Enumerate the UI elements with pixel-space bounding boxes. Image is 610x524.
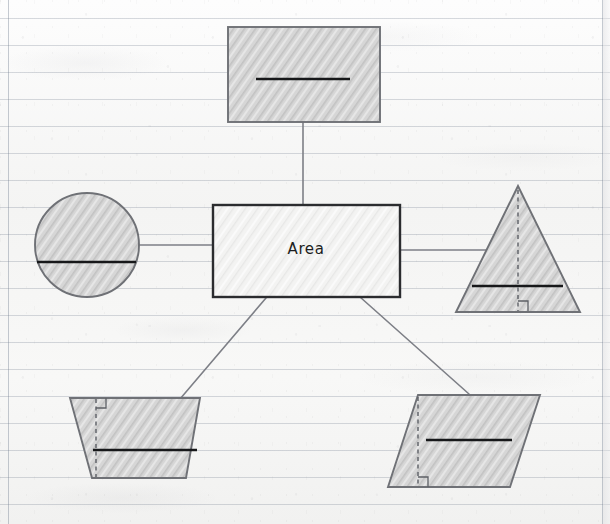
shape-triangle — [456, 186, 580, 312]
mind-map-artwork: Area — [0, 0, 610, 524]
connector-center-to-trapezoid — [180, 298, 266, 399]
center-node[interactable]: Area — [213, 205, 400, 297]
triangle-outline — [456, 186, 580, 312]
connector-center-to-parallelogram — [360, 297, 469, 394]
rectangle-outline — [228, 27, 380, 122]
shape-trapezoid — [70, 398, 200, 478]
circle-outline — [35, 193, 139, 297]
shape-rectangle — [228, 27, 380, 122]
notebook-page: Area — [0, 0, 610, 524]
trapezoid-outline — [70, 398, 200, 478]
shape-circle — [35, 193, 139, 297]
center-node-label: Area — [288, 240, 325, 258]
shape-parallelogram — [388, 395, 540, 487]
